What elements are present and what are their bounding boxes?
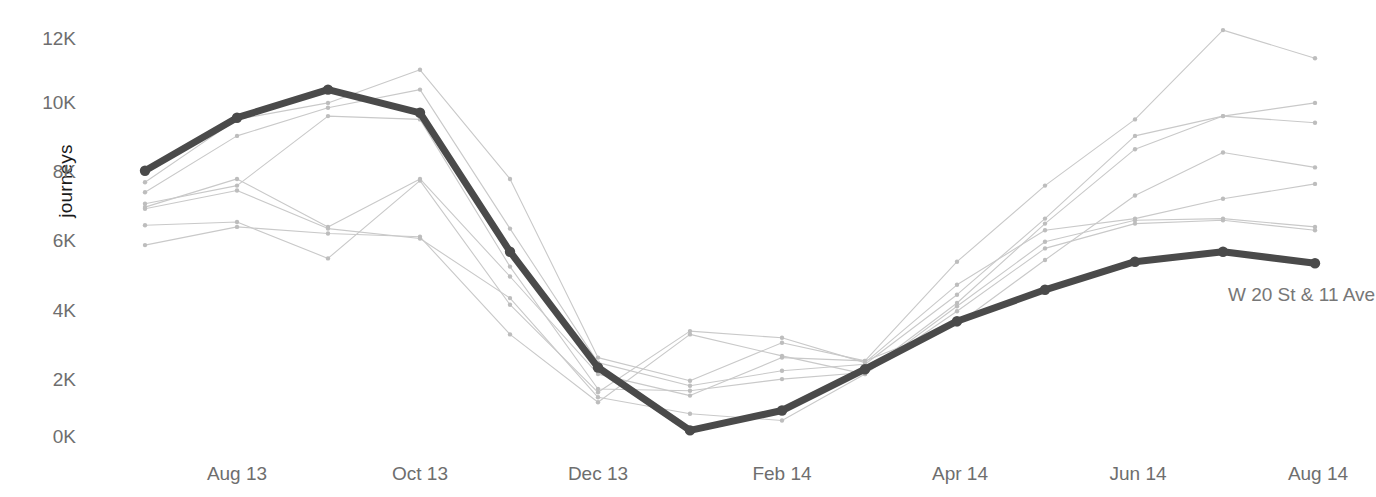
y-tick-2k: 2K [10, 369, 76, 391]
context-point [1221, 218, 1225, 222]
highlight-point[interactable] [685, 425, 695, 435]
context-series-group [143, 28, 1317, 423]
highlight-point[interactable] [860, 364, 870, 374]
context-point [143, 180, 147, 184]
context-point [955, 293, 959, 297]
x-tick-apr-14: Apr 14 [890, 463, 1030, 485]
context-point [235, 220, 239, 224]
context-point [418, 68, 422, 72]
context-line [145, 181, 1315, 393]
context-point [955, 309, 959, 313]
context-point [326, 226, 330, 230]
highlight-point[interactable] [140, 166, 150, 176]
context-point [688, 384, 692, 388]
context-point [1221, 150, 1225, 154]
context-point [780, 341, 784, 345]
context-point [1133, 221, 1137, 225]
x-tick-feb-14: Feb 14 [712, 463, 852, 485]
context-point [1133, 147, 1137, 151]
highlight-point[interactable] [1130, 257, 1140, 267]
context-point [508, 296, 512, 300]
context-point [780, 369, 784, 373]
context-point [1133, 193, 1137, 197]
highlight-point[interactable] [1040, 285, 1050, 295]
context-point [1043, 216, 1047, 220]
context-point [235, 183, 239, 187]
context-point [1313, 228, 1317, 232]
y-tick-10k: 10K [10, 92, 76, 114]
context-point [1313, 101, 1317, 105]
context-point [1043, 246, 1047, 250]
context-point [326, 101, 330, 105]
context-point [143, 190, 147, 194]
context-point [508, 264, 512, 268]
x-tick-aug-13: Aug 13 [167, 463, 307, 485]
context-point [235, 177, 239, 181]
context-point [1043, 228, 1047, 232]
context-point [596, 400, 600, 404]
context-line [145, 153, 1315, 396]
context-point [688, 412, 692, 416]
context-point [508, 303, 512, 307]
context-point [235, 225, 239, 229]
highlight-point[interactable] [1218, 247, 1228, 257]
x-tick-oct-13: Oct 13 [350, 463, 490, 485]
y-tick-12k: 12K [10, 28, 76, 50]
highlight-point[interactable] [593, 362, 603, 372]
plot-area [0, 0, 1376, 497]
context-line [145, 219, 1315, 403]
context-point [1313, 121, 1317, 125]
highlight-point[interactable] [505, 247, 515, 257]
x-tick-aug-14: Aug 14 [1248, 463, 1376, 485]
context-point [143, 223, 147, 227]
context-point [688, 332, 692, 336]
context-point [1043, 183, 1047, 187]
context-point [688, 379, 692, 383]
x-tick-jun-14: Jun 14 [1068, 463, 1208, 485]
context-point [326, 231, 330, 235]
context-point [1133, 134, 1137, 138]
context-line [145, 116, 1315, 391]
context-point [1221, 114, 1225, 118]
context-point [1221, 197, 1225, 201]
highlight-point[interactable] [323, 84, 333, 94]
highlight-point[interactable] [777, 405, 787, 415]
context-point [780, 377, 784, 381]
context-point [955, 283, 959, 287]
context-point [955, 260, 959, 264]
context-point [418, 178, 422, 182]
y-tick-4k: 4K [10, 300, 76, 322]
context-point [596, 355, 600, 359]
context-line [145, 30, 1315, 381]
highlight-point[interactable] [415, 108, 425, 118]
context-point [780, 418, 784, 422]
context-point [326, 114, 330, 118]
context-point [508, 226, 512, 230]
context-point [1043, 221, 1047, 225]
y-tick-0k: 0K [10, 426, 76, 448]
series-label-highlight: W 20 St & 11 Ave [1228, 284, 1375, 306]
highlight-point[interactable] [232, 113, 242, 123]
context-point [1043, 258, 1047, 262]
highlight-point[interactable] [952, 316, 962, 326]
context-point [780, 336, 784, 340]
highlight-point[interactable] [1310, 258, 1320, 268]
context-point [326, 256, 330, 260]
context-point [143, 207, 147, 211]
context-point [418, 236, 422, 240]
context-point [1221, 28, 1225, 32]
context-point [235, 134, 239, 138]
context-point [326, 106, 330, 110]
context-point [235, 188, 239, 192]
context-point [596, 390, 600, 394]
context-point [1313, 182, 1317, 186]
context-point [688, 393, 692, 397]
y-tick-8k: 8K [10, 161, 76, 183]
x-tick-dec-13: Dec 13 [528, 463, 668, 485]
context-point [508, 177, 512, 181]
highlight-series-group [140, 84, 1320, 435]
context-point [1043, 240, 1047, 244]
context-point [596, 395, 600, 399]
y-tick-6k: 6K [10, 230, 76, 252]
context-line [145, 90, 1315, 386]
